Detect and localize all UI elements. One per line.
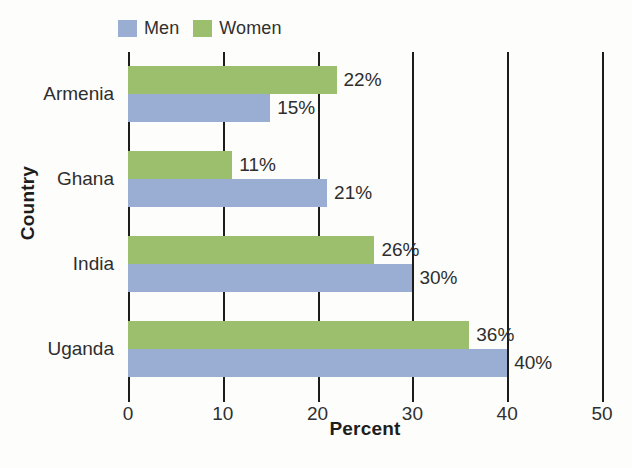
bar-men-armenia (128, 94, 270, 122)
bar-chart-figure: Men Women ArmeniaGhanaIndiaUganda Countr… (0, 0, 632, 468)
bar-value-men-armenia: 15% (270, 94, 315, 122)
legend-swatch-women (193, 20, 212, 37)
legend-label-men: Men (144, 19, 179, 37)
bar-value-men-india: 30% (412, 264, 457, 292)
bar-men-uganda (128, 349, 507, 377)
chart-legend: Men Women (118, 16, 282, 40)
y-axis-label-uganda: Uganda (0, 339, 114, 358)
y-axis-title: Country (17, 157, 39, 249)
bar-women-india (128, 236, 374, 264)
x-tick-mark-40 (507, 392, 509, 402)
bar-men-india (128, 264, 412, 292)
legend-label-women: Women (219, 19, 281, 37)
y-axis-label-armenia: Armenia (0, 84, 114, 103)
x-tick-mark-20 (318, 392, 320, 402)
bar-women-armenia (128, 66, 337, 94)
bar-value-men-ghana: 21% (327, 179, 372, 207)
bar-women-uganda (128, 321, 469, 349)
x-tick-mark-30 (412, 392, 414, 402)
y-axis-label-india: India (0, 254, 114, 273)
bar-value-men-uganda: 40% (507, 349, 552, 377)
gridline-50 (602, 52, 604, 392)
legend-entry-men: Men (118, 19, 179, 37)
x-tick-mark-10 (223, 392, 225, 402)
bar-value-women-uganda: 36% (469, 321, 514, 349)
bar-value-women-ghana: 11% (232, 151, 276, 179)
x-tick-mark-0 (128, 392, 130, 402)
legend-entry-women: Women (193, 19, 281, 37)
bar-value-women-india: 26% (374, 236, 419, 264)
bar-value-women-armenia: 22% (337, 66, 382, 94)
x-axis-title: Percent (128, 418, 602, 440)
bar-women-ghana (128, 151, 232, 179)
x-tick-mark-50 (602, 392, 604, 402)
bar-men-ghana (128, 179, 327, 207)
plot-area: 0102030405022%15%11%21%26%30%36%40% (128, 52, 602, 392)
